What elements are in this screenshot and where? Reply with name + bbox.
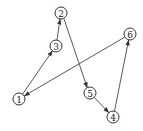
node-3-label: 3 bbox=[53, 42, 59, 52]
node-2-label: 2 bbox=[58, 9, 64, 19]
node-1-label: 1 bbox=[16, 95, 22, 105]
edge-4-to-6 bbox=[115, 40, 129, 111]
node-6-label: 6 bbox=[127, 30, 133, 40]
node-5: 5 bbox=[84, 87, 96, 99]
edge-6-to-1 bbox=[24, 37, 125, 96]
node-6: 6 bbox=[124, 28, 136, 40]
node-4-label: 4 bbox=[110, 113, 116, 123]
directed-graph-diagram: 1 2 3 4 5 6 bbox=[0, 0, 143, 131]
node-5-label: 5 bbox=[87, 89, 93, 99]
node-2: 2 bbox=[55, 7, 67, 19]
edge-5-to-4 bbox=[94, 97, 109, 112]
node-4: 4 bbox=[107, 111, 119, 123]
edge-2-to-5 bbox=[64, 18, 87, 87]
edge-3-to-2 bbox=[57, 19, 60, 40]
node-3: 3 bbox=[50, 40, 62, 52]
node-1: 1 bbox=[13, 93, 25, 105]
